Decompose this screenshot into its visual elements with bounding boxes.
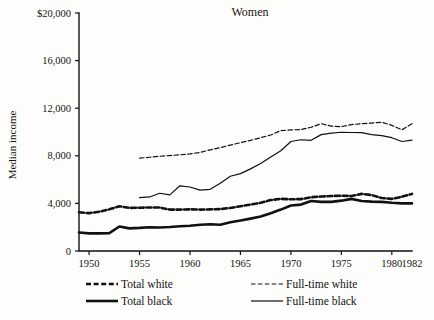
series-line-full-time-white: [140, 122, 412, 158]
y-tick-label: 8,000: [47, 150, 71, 161]
x-tick-label: 1980: [381, 258, 402, 269]
legend-label: Total white: [121, 278, 173, 290]
data-series-group: [79, 122, 412, 233]
chart-legend: Total whiteFull-time whiteTotal blackFul…: [86, 278, 357, 307]
chart-title: Women: [231, 5, 268, 19]
chart-title-group: Women: [231, 5, 268, 19]
legend-label: Total black: [121, 295, 172, 307]
x-tick-label: 1950: [79, 258, 100, 269]
series-line-full-time-black: [140, 132, 412, 197]
y-tick-label: 0: [66, 246, 71, 257]
y-axis-title: Median income: [6, 111, 18, 180]
x-tick-label: 1975: [331, 258, 352, 269]
x-tick-label: 1955: [129, 258, 150, 269]
series-line-total-white: [79, 194, 412, 213]
legend-label: Full-time black: [286, 295, 357, 307]
y-tick-label: 12,000: [42, 103, 71, 114]
y-tick-label: 16,000: [42, 55, 71, 66]
chart-figure: Women Median income $20,00016,00012,0008…: [0, 0, 434, 320]
y-axis-ticks: $20,00016,00012,0008,0004,0000: [37, 8, 79, 257]
x-tick-label: 1982: [402, 258, 423, 269]
legend-label: Full-time white: [286, 278, 357, 290]
x-tick-label: 1970: [280, 258, 301, 269]
y-tick-label: $20,000: [37, 8, 71, 19]
x-tick-label: 1960: [180, 258, 201, 269]
series-line-total-black: [79, 199, 412, 234]
y-tick-label: 4,000: [47, 198, 71, 209]
x-tick-label: 1965: [230, 258, 251, 269]
chart-canvas: Women Median income $20,00016,00012,0008…: [0, 0, 434, 320]
x-axis-ticks: 19501955196019651970197519801982: [79, 251, 423, 269]
y-axis-title-group: Median income: [6, 111, 18, 180]
axis-lines: [79, 13, 412, 251]
